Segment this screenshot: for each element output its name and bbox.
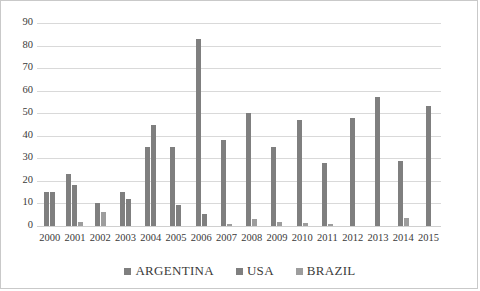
- bar-group-2004: [138, 23, 163, 226]
- bar-argentina-2007: [221, 140, 226, 226]
- bar-usa-2005: [176, 205, 181, 226]
- bar-brazil-2001: [78, 222, 83, 227]
- x-tick-label-2011: 2011: [315, 229, 340, 247]
- bar-group-2010: [290, 23, 315, 226]
- legend-item-usa[interactable]: USA: [236, 263, 274, 279]
- x-tick-label-2015: 2015: [416, 229, 441, 247]
- y-tick-label-60: 60: [7, 85, 33, 96]
- x-tick-label-2014: 2014: [391, 229, 416, 247]
- bar-usa-2003: [126, 199, 131, 226]
- x-tick-label-2008: 2008: [239, 229, 264, 247]
- plot-area: [37, 23, 441, 226]
- y-tick-label-30: 30: [7, 152, 33, 163]
- bar-chart: 2000200120022003200420052006200720082009…: [0, 0, 478, 289]
- bar-argentina-2003: [120, 192, 125, 226]
- bar-argentina-2009: [271, 147, 276, 226]
- bar-argentina-2004: [145, 147, 150, 226]
- bar-brazil-2007: [227, 224, 232, 226]
- bar-usa-2001: [72, 185, 77, 226]
- x-tick-label-2012: 2012: [340, 229, 365, 247]
- x-tick-label-2002: 2002: [88, 229, 113, 247]
- y-tick-label-20: 20: [7, 175, 33, 186]
- y-tick-label-0: 0: [7, 220, 33, 231]
- bar-brazil-2010: [303, 223, 308, 226]
- y-tick-label-80: 80: [7, 40, 33, 51]
- bar-group-2011: [315, 23, 340, 226]
- bar-group-2008: [239, 23, 264, 226]
- bar-brazil-2002: [101, 212, 106, 226]
- x-tick-label-2010: 2010: [290, 229, 315, 247]
- bar-group-2007: [214, 23, 239, 226]
- x-tick-label-2007: 2007: [214, 229, 239, 247]
- bar-brazil-2009: [277, 222, 282, 227]
- bar-group-2003: [113, 23, 138, 226]
- legend-label-brazil: BRAZIL: [307, 263, 356, 279]
- bar-group-2002: [88, 23, 113, 226]
- bar-groups: [37, 23, 441, 226]
- bar-argentina-2008: [246, 113, 251, 226]
- gridline-0: [37, 226, 441, 227]
- bar-brazil-2011: [328, 224, 333, 226]
- legend-item-brazil[interactable]: BRAZIL: [296, 263, 356, 279]
- legend-swatch-icon-argentina: [124, 268, 131, 275]
- x-tick-label-2005: 2005: [163, 229, 188, 247]
- bar-usa-2006: [202, 214, 207, 226]
- bar-argentina-2013: [375, 97, 380, 226]
- x-tick-label-2004: 2004: [138, 229, 163, 247]
- legend-label-argentina: ARGENTINA: [135, 263, 214, 279]
- bar-argentina-2011: [322, 163, 327, 226]
- bar-argentina-2010: [297, 120, 302, 226]
- bar-brazil-2008: [252, 219, 257, 226]
- y-tick-label-50: 50: [7, 107, 33, 118]
- bar-argentina-2006: [196, 39, 201, 226]
- x-tick-label-2003: 2003: [113, 229, 138, 247]
- bar-argentina-2015: [426, 106, 431, 226]
- bar-group-2006: [189, 23, 214, 226]
- x-axis-tick-labels: 2000200120022003200420052006200720082009…: [37, 229, 441, 247]
- y-tick-label-70: 70: [7, 62, 33, 73]
- bar-group-2009: [264, 23, 289, 226]
- bar-brazil-2014: [404, 218, 409, 226]
- y-tick-label-90: 90: [7, 17, 33, 28]
- bar-argentina-2002: [95, 203, 100, 226]
- bar-group-2001: [62, 23, 87, 226]
- bar-argentina-2001: [66, 174, 71, 226]
- x-tick-label-2001: 2001: [62, 229, 87, 247]
- bar-group-2014: [391, 23, 416, 226]
- bar-usa-2000: [50, 192, 55, 226]
- legend-item-argentina[interactable]: ARGENTINA: [124, 263, 214, 279]
- y-tick-label-10: 10: [7, 197, 33, 208]
- bar-usa-2004: [151, 125, 156, 227]
- y-tick-label-40: 40: [7, 130, 33, 141]
- bar-group-2012: [340, 23, 365, 226]
- x-tick-label-2009: 2009: [264, 229, 289, 247]
- x-tick-label-2000: 2000: [37, 229, 62, 247]
- bar-argentina-2005: [170, 147, 175, 226]
- x-tick-label-2006: 2006: [189, 229, 214, 247]
- bar-argentina-2000: [44, 192, 49, 226]
- legend-label-usa: USA: [247, 263, 274, 279]
- x-tick-label-2013: 2013: [365, 229, 390, 247]
- bar-group-2005: [163, 23, 188, 226]
- legend-swatch-icon-brazil: [296, 268, 303, 275]
- chart-legend: ARGENTINAUSABRAZIL: [1, 259, 479, 283]
- bar-group-2013: [365, 23, 390, 226]
- bar-group-2000: [37, 23, 62, 226]
- legend-swatch-icon-usa: [236, 268, 243, 275]
- bar-argentina-2014: [398, 161, 403, 226]
- bar-argentina-2012: [350, 118, 355, 226]
- bar-group-2015: [416, 23, 441, 226]
